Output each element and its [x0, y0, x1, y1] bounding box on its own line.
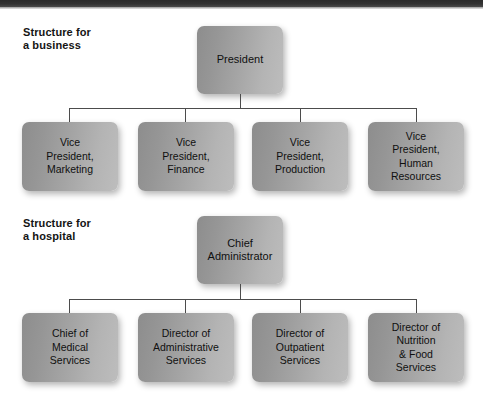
- connector-drop-hosp-3: [300, 299, 301, 313]
- node-director-administrative-services: Director of Administrative Services: [138, 313, 234, 382]
- node-director-outpatient-services: Director of Outpatient Services: [252, 313, 348, 382]
- node-vp-finance: Vice President, Finance: [138, 122, 234, 191]
- node-chief-medical-services: Chief of Medical Services: [22, 313, 118, 382]
- connector-drop-hosp-1: [69, 299, 70, 313]
- node-vp-human-resources-label: Vice President, Human Resources: [388, 130, 444, 184]
- node-chief-administrator: Chief Administrator: [197, 216, 283, 284]
- connector-drop-bus-1: [69, 108, 70, 122]
- org-chart-figure: Structure for a business President Vice …: [0, 0, 483, 403]
- node-vp-production: Vice President, Production: [252, 122, 348, 191]
- connector-drop-bus-2: [185, 108, 186, 122]
- connector-horizontal-bus: [69, 108, 417, 109]
- node-director-outpatient-services-label: Director of Outpatient Services: [273, 327, 327, 368]
- node-president-label: President: [214, 53, 266, 67]
- node-chief-medical-services-label: Chief of Medical Services: [47, 327, 93, 368]
- page-scan-top-band: [0, 0, 483, 7]
- section-caption-hospital: Structure for a hospital: [23, 217, 91, 243]
- node-director-nutrition-food-services-label: Director of Nutrition & Food Services: [389, 321, 443, 375]
- node-vp-marketing: Vice President, Marketing: [22, 122, 118, 191]
- node-vp-finance-label: Vice President, Finance: [159, 136, 212, 177]
- section-caption-business: Structure for a business: [23, 26, 91, 52]
- connector-drop-bus-4: [416, 108, 417, 122]
- node-director-nutrition-food-services: Director of Nutrition & Food Services: [368, 313, 464, 382]
- connector-drop-hosp-2: [185, 299, 186, 313]
- node-chief-administrator-label: Chief Administrator: [205, 237, 276, 264]
- connector-drop-hosp-4: [416, 299, 417, 313]
- node-president: President: [197, 26, 283, 94]
- page-scan-top-band-edge: [0, 7, 483, 9]
- node-vp-production-label: Vice President, Production: [272, 136, 328, 177]
- node-vp-human-resources: Vice President, Human Resources: [368, 122, 464, 191]
- node-vp-marketing-label: Vice President, Marketing: [43, 136, 96, 177]
- node-director-administrative-services-label: Director of Administrative Services: [150, 327, 222, 368]
- connector-root-stem-business: [240, 94, 241, 108]
- connector-horizontal-hosp: [69, 299, 417, 300]
- connector-drop-bus-3: [300, 108, 301, 122]
- connector-root-stem-hospital: [240, 284, 241, 299]
